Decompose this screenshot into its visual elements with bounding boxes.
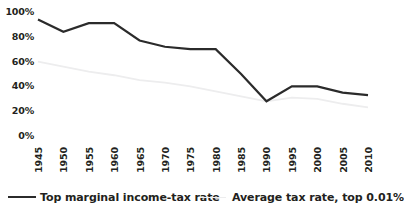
y-tick-label-0: 0%: [0, 131, 34, 141]
x-tick-label-1970: 1970: [159, 147, 170, 173]
x-axis-tick-labels: 1945195019551960196519701975198019851990…: [36, 140, 373, 182]
x-tick-label-wrap-1970: 1970: [158, 140, 172, 180]
y-tick-label-80: 80%: [0, 32, 34, 42]
plot-svg: [36, 8, 373, 140]
x-tick-label-wrap-1965: 1965: [133, 140, 147, 180]
x-tick-label-wrap-1985: 1985: [234, 140, 248, 180]
x-tick-label-wrap-1955: 1955: [82, 140, 96, 180]
x-tick-label-wrap-1945: 1945: [31, 140, 45, 180]
x-tick-label-1945: 1945: [33, 147, 44, 173]
legend-item-top-marginal-rate: Top marginal income-tax rate: [8, 186, 220, 208]
x-tick-label-2000: 2000: [312, 147, 323, 173]
chart-legend: Top marginal income-tax rate Average tax…: [0, 186, 375, 211]
x-tick-label-1995: 1995: [286, 147, 297, 173]
x-tick-label-1975: 1975: [185, 147, 196, 173]
x-tick-label-wrap-1950: 1950: [56, 140, 70, 180]
x-tick-label-1990: 1990: [261, 147, 272, 173]
legend-label-top-marginal-rate: Top marginal income-tax rate: [40, 191, 220, 204]
x-tick-label-wrap-1990: 1990: [259, 140, 273, 180]
legend-line-swatch-dark: [8, 196, 36, 198]
legend-label-average-rate: Average tax rate, top 0.01%: [232, 191, 404, 204]
y-tick-label-60: 60%: [0, 57, 34, 67]
y-tick-label-100: 100%: [0, 7, 34, 17]
x-tick-label-wrap-2000: 2000: [310, 140, 324, 180]
x-tick-label-wrap-1975: 1975: [183, 140, 197, 180]
x-tick-label-wrap-2010: 2010: [361, 140, 375, 180]
legend-line-swatch-light: [200, 197, 226, 198]
x-tick-label-1950: 1950: [58, 147, 69, 173]
x-tick-label-2005: 2005: [337, 147, 348, 173]
plot-area: [36, 8, 373, 140]
x-tick-label-1980: 1980: [210, 147, 221, 173]
series-line-average-rate: [38, 62, 368, 108]
x-tick-label-wrap-1995: 1995: [285, 140, 299, 180]
x-tick-label-wrap-2005: 2005: [336, 140, 350, 180]
legend-item-average-rate: Average tax rate, top 0.01%: [200, 186, 404, 208]
x-tick-label-1960: 1960: [109, 147, 120, 173]
x-tick-label-1985: 1985: [236, 147, 247, 173]
x-tick-label-1955: 1955: [83, 147, 94, 173]
x-tick-label-1965: 1965: [134, 147, 145, 173]
x-tick-label-wrap-1980: 1980: [209, 140, 223, 180]
y-tick-label-20: 20%: [0, 106, 34, 116]
y-tick-label-40: 40%: [0, 81, 34, 91]
y-axis-tick-labels: 100%80%60%40%20%0%: [0, 0, 34, 145]
x-tick-label-2010: 2010: [363, 147, 374, 173]
x-tick-label-wrap-1960: 1960: [107, 140, 121, 180]
